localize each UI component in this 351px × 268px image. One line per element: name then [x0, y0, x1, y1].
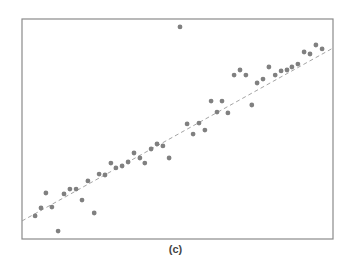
data-point	[314, 43, 319, 48]
dashed-trend-line	[22, 48, 333, 221]
data-point	[273, 73, 278, 78]
data-point	[296, 62, 301, 67]
data-point	[86, 179, 91, 184]
data-point	[50, 205, 55, 210]
data-point	[285, 68, 290, 73]
scatter-chart	[0, 0, 351, 268]
data-point	[167, 156, 172, 161]
data-point	[308, 52, 313, 57]
data-point	[114, 166, 119, 171]
data-point	[215, 110, 220, 115]
data-point	[138, 156, 143, 161]
data-point	[62, 192, 67, 197]
data-point	[68, 187, 73, 192]
data-point	[80, 198, 85, 203]
data-point	[226, 111, 231, 116]
data-point	[232, 73, 237, 78]
data-point	[209, 99, 214, 104]
data-point	[249, 103, 254, 108]
data-point	[267, 65, 272, 70]
data-point	[279, 69, 284, 74]
data-point	[185, 122, 190, 127]
data-point	[44, 191, 49, 196]
data-point	[103, 173, 108, 178]
trend-line	[22, 48, 333, 221]
data-point	[126, 160, 131, 165]
data-point	[56, 229, 61, 234]
data-point	[149, 147, 154, 152]
data-point	[132, 151, 137, 156]
data-points	[33, 25, 325, 234]
data-point	[74, 187, 79, 192]
plot-frame	[22, 19, 333, 239]
data-point	[191, 132, 196, 137]
data-point	[320, 47, 325, 52]
data-point	[203, 128, 208, 133]
data-point	[255, 81, 260, 86]
figure-caption: (c)	[0, 243, 351, 255]
data-point	[92, 211, 97, 216]
data-point	[178, 25, 183, 30]
data-point	[39, 206, 44, 211]
data-point	[261, 77, 266, 82]
data-point	[120, 164, 125, 169]
data-point	[220, 99, 225, 104]
data-point	[290, 65, 295, 70]
data-point	[302, 50, 307, 55]
data-point	[161, 144, 166, 149]
data-point	[97, 172, 102, 177]
data-point	[155, 142, 160, 147]
data-point	[33, 214, 38, 219]
data-point	[109, 161, 114, 166]
data-point	[238, 68, 243, 73]
data-point	[197, 121, 202, 126]
data-point	[244, 73, 249, 78]
data-point	[142, 161, 147, 166]
